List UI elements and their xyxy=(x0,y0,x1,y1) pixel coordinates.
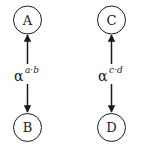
node-a-label: A xyxy=(22,13,33,28)
node-d-label: D xyxy=(106,120,116,135)
node-d: D xyxy=(98,114,126,142)
edge-superscript-left: a·b xyxy=(25,65,39,75)
edge-superscript-right: c·d xyxy=(109,65,123,75)
diagram-canvas: A α a·b B C α c·d D xyxy=(0,0,163,150)
node-b-label: B xyxy=(23,120,33,135)
node-b: B xyxy=(14,114,42,142)
node-c-label: C xyxy=(107,13,117,28)
edge-label-right: α xyxy=(98,68,108,84)
left-graph: A α a·b B xyxy=(14,6,42,142)
edge-label-left: α xyxy=(14,68,24,84)
node-a: A xyxy=(14,6,42,34)
node-c: C xyxy=(98,6,126,34)
right-graph: C α c·d D xyxy=(98,6,126,142)
